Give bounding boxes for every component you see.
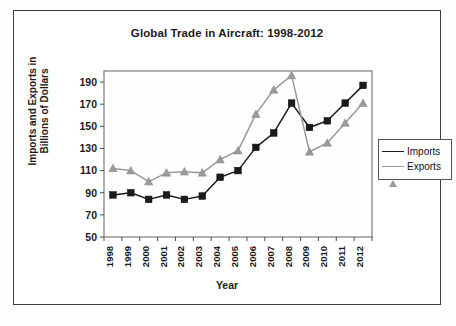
svg-text:150: 150 — [79, 120, 97, 132]
svg-text:2012: 2012 — [354, 246, 365, 267]
svg-text:1999: 1999 — [122, 246, 133, 267]
svg-text:170: 170 — [79, 98, 97, 110]
svg-text:2011: 2011 — [336, 245, 347, 266]
svg-text:2005: 2005 — [229, 245, 240, 267]
svg-text:2009: 2009 — [300, 246, 311, 267]
legend-label-exports: Exports — [404, 161, 441, 172]
legend-marker-triangle-icon — [382, 161, 404, 172]
legend-label-imports: Imports — [404, 146, 440, 157]
legend-marker-square-icon — [382, 146, 404, 157]
svg-text:2007: 2007 — [265, 246, 276, 267]
svg-text:190: 190 — [79, 76, 97, 88]
scanned-page: Global Trade in Aircraft: 1998-2012 Impo… — [0, 0, 456, 326]
chart-legend: Imports Exports — [378, 139, 452, 180]
svg-text:2000: 2000 — [140, 246, 151, 267]
svg-text:1998: 1998 — [104, 246, 115, 267]
svg-text:2002: 2002 — [175, 246, 186, 267]
svg-text:130: 130 — [79, 142, 97, 154]
svg-text:2003: 2003 — [193, 246, 204, 267]
figure-border-box: Global Trade in Aircraft: 1998-2012 Impo… — [13, 10, 441, 305]
legend-item-exports: Exports — [382, 159, 448, 174]
svg-text:2006: 2006 — [247, 246, 258, 267]
svg-text:50: 50 — [85, 231, 97, 243]
svg-text:2004: 2004 — [211, 245, 222, 267]
x-axis-ticks: 1998199920002001200220032004200520062007… — [104, 237, 372, 267]
svg-text:2001: 2001 — [158, 245, 169, 267]
svg-text:70: 70 — [85, 209, 97, 221]
svg-text:2008: 2008 — [283, 246, 294, 267]
legend-item-imports: Imports — [382, 144, 448, 159]
y-axis-ticks: 507090110130150170190 — [79, 76, 104, 243]
svg-text:2010: 2010 — [318, 246, 329, 267]
svg-text:90: 90 — [85, 187, 97, 199]
svg-text:110: 110 — [80, 164, 97, 176]
